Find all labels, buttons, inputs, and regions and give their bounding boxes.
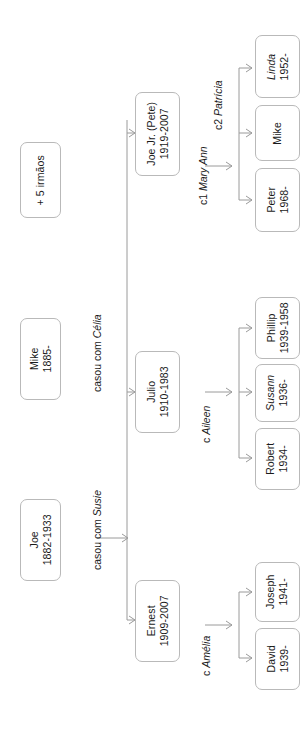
label-casou-com-susie-italic: Susie [91, 490, 103, 516]
node-joe-jr-line1: Joe Jr. (Pete) [145, 102, 158, 166]
node-joe-sr-line1: Joe [28, 514, 41, 565]
node-mike-jr[interactable]: Mike [255, 105, 300, 161]
node-david-line1: David [265, 645, 278, 672]
label-casou-com-celia-italic: Célia [91, 314, 103, 338]
label-c-amelia-italic: Amélia [200, 636, 212, 668]
label-c2-prefix: c2 [212, 116, 224, 130]
node-peter-line2: 1968- [277, 186, 290, 213]
node-julio[interactable]: Julio 1910-1983 [135, 351, 180, 433]
node-ernest-line2: 1909-2007 [158, 595, 171, 646]
node-joe-sr-text: Joe 1882-1933 [28, 514, 54, 565]
node-linda-line2: 1952- [277, 53, 290, 80]
node-ernest-line1: Ernest [145, 595, 158, 646]
node-susann-line2: 1936- [278, 375, 291, 411]
node-joe-jr-text: Joe Jr. (Pete) 1919-2007 [145, 102, 171, 166]
node-phillip-line2: 1939-1958 [278, 302, 291, 353]
node-joe-jr[interactable]: Joe Jr. (Pete) 1919-2007 [135, 92, 180, 176]
node-mike-sr-line2: 1885- [40, 345, 53, 372]
node-siblings-text: + 5 irmãos [34, 155, 47, 205]
node-mike-jr-text: Mike [271, 122, 284, 145]
label-casou-com-susie-plain: casou com [91, 516, 103, 570]
label-c-amelia-prefix: c [200, 668, 212, 676]
node-linda[interactable]: Linda 1952- [255, 35, 300, 98]
node-linda-text: Linda 1952- [265, 53, 291, 80]
node-susann[interactable]: Susann 1936- [255, 364, 300, 422]
label-casou-com-celia-plain: casou com [91, 338, 103, 392]
label-casou-com-susie: casou com Susie [92, 490, 104, 570]
node-ernest-text: Ernest 1909-2007 [145, 595, 171, 646]
family-tree-diagram: + 5 irmãos Mike 1885- Joe 1882-1933 Joe … [0, 0, 308, 739]
node-siblings-line1: + 5 irmãos [34, 155, 47, 205]
node-susann-text: Susann 1936- [265, 375, 291, 411]
label-c-aileen-prefix: c [200, 435, 212, 443]
node-mike-jr-line1: Mike [271, 122, 284, 145]
label-c2-patricia: c2 Patrícia [213, 80, 225, 130]
node-phillip-line1: Phillip [265, 302, 278, 353]
node-joseph-text: Joseph 1941- [265, 575, 291, 609]
node-joseph-line1: Joseph [265, 575, 278, 609]
node-julio-text: Julio 1910-1983 [145, 366, 171, 417]
node-joe-sr-line2: 1882-1933 [41, 514, 54, 565]
node-robert-line2: 1934- [278, 443, 291, 475]
node-robert[interactable]: Robert 1934- [255, 428, 300, 490]
node-robert-text: Robert 1934- [265, 443, 291, 475]
label-c2-italic: Patrícia [212, 80, 224, 116]
node-joseph-line2: 1941- [278, 575, 291, 609]
node-david-line2: 1939- [277, 645, 290, 672]
label-c-aileen-italic: Aileen [200, 406, 212, 435]
label-c-aileen: c Aileen [201, 406, 213, 443]
node-mike-sr-text: Mike 1885- [28, 345, 54, 372]
label-c-amelia: c Amélia [201, 636, 213, 676]
node-robert-line1: Robert [265, 443, 278, 475]
node-peter[interactable]: Peter 1968- [255, 168, 300, 232]
node-siblings[interactable]: + 5 irmãos [20, 142, 61, 218]
node-phillip-text: Phillip 1939-1958 [265, 302, 291, 353]
node-peter-line1: Peter [265, 186, 278, 213]
label-casou-com-celia: casou com Célia [92, 314, 104, 392]
label-c1-prefix: c1 [197, 191, 209, 205]
node-joe-sr[interactable]: Joe 1882-1933 [20, 499, 61, 581]
node-david-text: David 1939- [265, 645, 291, 672]
node-mike-sr[interactable]: Mike 1885- [20, 318, 61, 400]
node-julio-line2: 1910-1983 [158, 366, 171, 417]
node-mike-sr-line1: Mike [28, 345, 41, 372]
label-c1-italic: Mary Ann [197, 146, 209, 191]
node-ernest[interactable]: Ernest 1909-2007 [135, 580, 180, 662]
node-linda-line1: Linda [265, 53, 278, 80]
node-joe-jr-line2: 1919-2007 [158, 102, 171, 166]
node-susann-line1: Susann [265, 375, 278, 411]
node-peter-text: Peter 1968- [265, 186, 291, 213]
node-joseph[interactable]: Joseph 1941- [255, 562, 300, 622]
node-julio-line1: Julio [145, 366, 158, 417]
label-c1-mary-ann: c1 Mary Ann [198, 146, 210, 205]
node-david[interactable]: David 1939- [255, 628, 300, 690]
node-phillip[interactable]: Phillip 1939-1958 [255, 297, 300, 359]
